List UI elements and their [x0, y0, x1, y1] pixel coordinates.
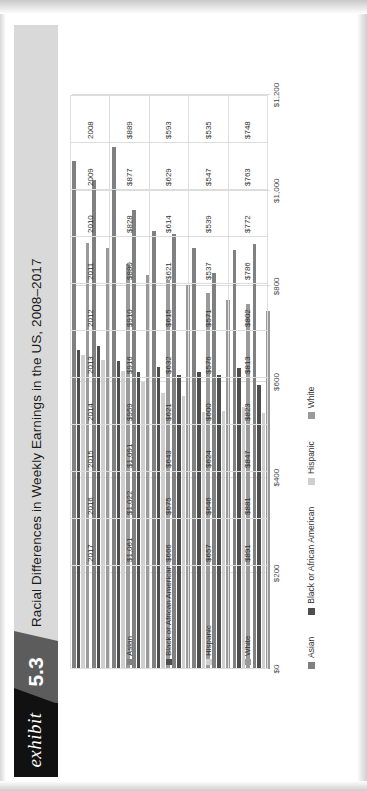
table-cell: $828: [110, 190, 149, 237]
chart-legend: AsianBlack or African AmericanHispanicWh…: [306, 387, 316, 669]
table-row-label-text: Black or African American: [164, 566, 173, 657]
legend-swatch-icon: [127, 659, 133, 665]
table-cell: $643: [149, 425, 188, 472]
axis-tick-label: $400: [272, 469, 281, 487]
axis-tick-label: $800: [272, 277, 281, 295]
table-cell: $847: [228, 425, 267, 472]
table-cell: $772: [228, 190, 267, 237]
legend-label: Asian: [306, 637, 316, 658]
table-year-header: 2014: [71, 378, 110, 425]
table-row: Black or African American$666$675$643$62…: [149, 96, 188, 669]
table-cell: $571: [189, 284, 228, 331]
table-cell: $748: [228, 96, 267, 143]
legend-item: Hispanic: [306, 441, 316, 485]
legend-label: Hispanic: [306, 441, 316, 474]
table-row: Asian$1,061$1,022$1,091$959$916$910$880$…: [110, 96, 149, 669]
table-cell: $880: [110, 237, 149, 284]
table-year-header: 2013: [71, 331, 110, 378]
legend-color-icon: [308, 608, 315, 615]
table-year-header: 2008: [71, 96, 110, 143]
table-cell: $614: [149, 190, 188, 237]
table-header-row: 2017201620152014201320122011201020092008: [71, 96, 110, 669]
table-cell: $621: [149, 237, 188, 284]
table-cell: $537: [189, 237, 228, 284]
axis-tick-label: $1,000: [272, 178, 281, 202]
table-row-label: Black or African American: [149, 566, 188, 669]
exhibit-banner: exhibit 5.3 Racial Differences in Weekly…: [14, 25, 58, 777]
table-cell: $959: [110, 378, 149, 425]
page-edge-left: [0, 781, 367, 791]
table-year-header: 2017: [71, 519, 110, 566]
table-cell: $657: [189, 519, 228, 566]
page-edge-top: [0, 0, 6, 791]
table-row-label: White: [228, 566, 267, 669]
legend-swatch-icon: [166, 659, 172, 665]
table-cell: $539: [189, 190, 228, 237]
table-row: Hispanic$657$646$624$600$576$571$537$539…: [189, 96, 228, 669]
table-year-header: 2011: [71, 237, 110, 284]
table-cell: $666: [149, 519, 188, 566]
table-cell: $813: [228, 331, 267, 378]
table-cell: $916: [110, 331, 149, 378]
legend-swatch-icon: [206, 659, 212, 665]
page-edge-bottom: [357, 0, 367, 791]
table-cell: $600: [189, 378, 228, 425]
axis-tick-label: $0: [272, 665, 281, 674]
axis-tick-label: $1,200: [272, 83, 281, 107]
value-axis-ticks: $0$200$400$600$800$1,000$1,200: [272, 95, 292, 669]
table-row: White$891$881$847$823$813$802$786$772$76…: [228, 96, 267, 669]
table-cell: $675: [149, 472, 188, 519]
table-cell: $629: [149, 143, 188, 190]
table-cell: $823: [228, 378, 267, 425]
legend-item: Asian: [306, 637, 316, 669]
chart-area: $0$200$400$600$800$1,000$1,200 201720162…: [70, 29, 350, 765]
table-row-label-text: White: [243, 636, 252, 656]
legend-label: Black or African American: [306, 507, 316, 604]
table-cell: $576: [189, 331, 228, 378]
exhibit-tab: exhibit: [14, 703, 58, 777]
table-cell: $881: [228, 472, 267, 519]
table-cell: $593: [149, 96, 188, 143]
legend-color-icon: [308, 662, 315, 669]
exhibit-page: exhibit 5.3 Racial Differences in Weekly…: [0, 0, 367, 791]
table-cell: $646: [189, 472, 228, 519]
legend-color-icon: [308, 412, 315, 419]
table-row-label-text: Hispanic: [204, 625, 213, 656]
table-row-label: Hispanic: [189, 566, 228, 669]
exhibit-tab-notch: [58, 703, 65, 781]
table-row-label-text: Asian: [125, 636, 134, 656]
table-year-header: 2012: [71, 284, 110, 331]
table-corner-cell: [71, 566, 110, 669]
table-cell: $889: [110, 96, 149, 143]
table-cell: $802: [228, 284, 267, 331]
table-year-header: 2009: [71, 143, 110, 190]
table-cell: $632: [149, 331, 188, 378]
exhibit-number: 5.3: [14, 641, 58, 703]
legend-label: White: [306, 387, 316, 409]
data-table: 2017201620152014201320122011201020092008…: [70, 95, 268, 669]
table-cell: $535: [189, 96, 228, 143]
table-year-header: 2015: [71, 425, 110, 472]
exhibit-word: exhibit: [24, 712, 46, 767]
table-cell: $763: [228, 143, 267, 190]
axis-tick-label: $600: [272, 373, 281, 391]
table-cell: $891: [228, 519, 267, 566]
table-cell: $786: [228, 237, 267, 284]
table-cell: $1,061: [110, 519, 149, 566]
legend-item: White: [306, 387, 316, 420]
table-year-header: 2010: [71, 190, 110, 237]
page-edge-right: [0, 0, 367, 14]
table-cell: $547: [189, 143, 228, 190]
exhibit-title: Racial Differences in Weekly Earnings in…: [14, 25, 58, 641]
table-cell: $877: [110, 143, 149, 190]
legend-item: Black or African American: [306, 507, 316, 615]
table-cell: $624: [189, 425, 228, 472]
table-cell: $615: [149, 284, 188, 331]
table-year-header: 2016: [71, 472, 110, 519]
axis-tick-label: $200: [272, 564, 281, 582]
table-row-label: Asian: [110, 566, 149, 669]
table-cell: $1,091: [110, 425, 149, 472]
legend-swatch-icon: [245, 659, 251, 665]
table-cell: $910: [110, 284, 149, 331]
legend-color-icon: [308, 478, 315, 485]
